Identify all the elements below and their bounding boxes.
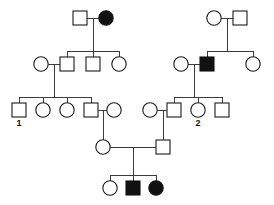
individual-id-label-2: 2 — [195, 118, 200, 128]
family-gen4 — [96, 140, 170, 181]
family-gen5 — [103, 181, 163, 195]
family-left-gen3: 1 — [12, 103, 121, 140]
family-right-gen3: 2 — [143, 103, 229, 140]
individual-female-unaffected[interactable] — [107, 103, 121, 117]
individual-female-unaffected-labelled-2[interactable] — [191, 103, 205, 117]
family-left-gen1 — [67, 11, 119, 57]
individual-male-affected[interactable] — [126, 181, 140, 195]
individual-female-unaffected[interactable] — [174, 57, 188, 71]
individual-male-unaffected[interactable] — [233, 11, 247, 25]
pedigree-diagram: 1 2 — [0, 0, 274, 205]
pedigree-chart: 1 2 — [0, 0, 274, 205]
individual-female-unaffected[interactable] — [96, 140, 110, 154]
individual-female-unaffected[interactable] — [143, 103, 157, 117]
individual-male-unaffected-labelled-1[interactable] — [12, 103, 26, 117]
individual-male-unaffected[interactable] — [73, 11, 87, 25]
family-right-gen1 — [207, 11, 253, 57]
individual-female-unaffected[interactable] — [34, 57, 48, 71]
individual-male-affected[interactable] — [200, 57, 214, 71]
individual-female-affected[interactable] — [149, 181, 163, 195]
individual-female-unaffected[interactable] — [207, 11, 221, 25]
individual-male-unaffected[interactable] — [167, 103, 181, 117]
individual-female-unaffected[interactable] — [246, 57, 260, 71]
individual-male-unaffected[interactable] — [84, 103, 98, 117]
individual-male-unaffected[interactable] — [156, 140, 170, 154]
individual-female-unaffected[interactable] — [36, 103, 50, 117]
family-right-gen2 — [174, 57, 260, 103]
family-left-gen2 — [19, 57, 126, 103]
individual-male-unaffected[interactable] — [86, 57, 100, 71]
individual-female-unaffected[interactable] — [60, 103, 74, 117]
individual-male-unaffected[interactable] — [60, 57, 74, 71]
individual-female-unaffected[interactable] — [103, 181, 117, 195]
individual-female-unaffected[interactable] — [112, 57, 126, 71]
individual-female-affected[interactable] — [99, 11, 113, 25]
individual-id-label-1: 1 — [16, 118, 21, 128]
individual-male-unaffected[interactable] — [215, 103, 229, 117]
